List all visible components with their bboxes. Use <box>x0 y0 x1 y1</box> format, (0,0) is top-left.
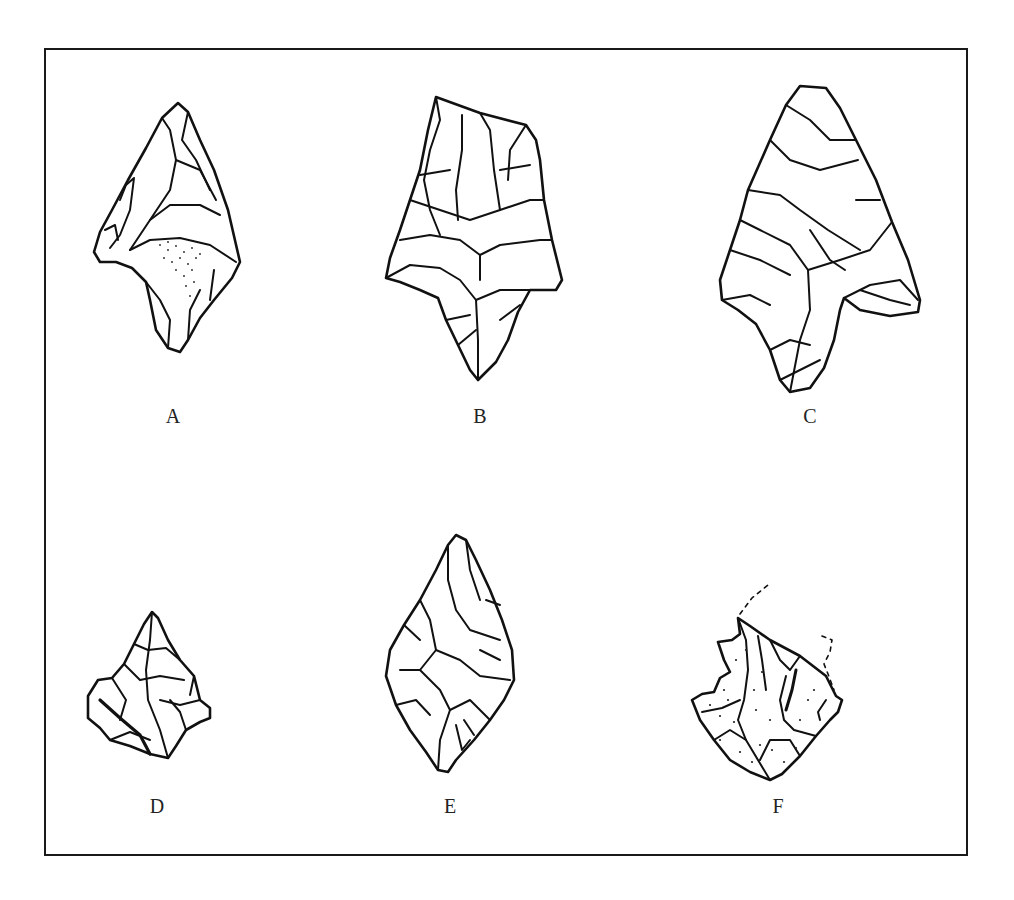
reconstruction-line-tip <box>740 585 768 614</box>
artifact-f-drawing <box>0 0 1014 900</box>
label-f: F <box>758 795 798 818</box>
